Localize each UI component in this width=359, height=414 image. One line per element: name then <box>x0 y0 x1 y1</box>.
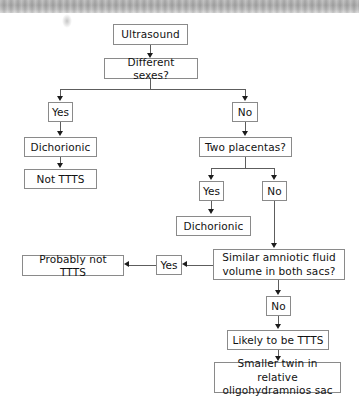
node-sexes-yes: Yes <box>48 102 73 122</box>
connector-two-placentas-stem <box>245 157 246 168</box>
node-placentas-no: No <box>262 181 287 201</box>
scanner-smudge <box>62 14 72 28</box>
node-probably-not-ttts: Probably not TTTS <box>22 255 124 276</box>
node-likely-to-be-ttts: Likely to be TTTS <box>227 330 329 350</box>
arrowhead-to-fluid-no <box>275 290 281 295</box>
scanner-artifact-band <box>0 0 359 13</box>
arrowhead-to-sexes-no <box>242 96 248 101</box>
arrowhead-to-likely-ttts <box>275 324 281 329</box>
node-smaller-twin-oligohydramnios: Smaller twin in relative oligohydramnios… <box>214 362 341 393</box>
node-similar-amniotic-fluid-line1: Similar amniotic fluid <box>222 251 336 265</box>
arrowhead-to-sexes-yes <box>57 96 63 101</box>
node-dichorionic-mid: Dichorionic <box>176 216 251 236</box>
connector-fluid-yes-to-probably-not-ttts <box>129 265 156 266</box>
connector-different-sexes-split <box>60 89 246 90</box>
node-fluid-no: No <box>266 296 291 316</box>
node-fluid-yes: Yes <box>156 255 182 275</box>
arrowhead-to-placentas-no <box>271 175 277 180</box>
arrowhead-to-not-ttts <box>57 163 63 168</box>
node-not-ttts: Not TTTS <box>24 169 97 189</box>
node-similar-amniotic-fluid-line2: volume in both sacs? <box>222 265 335 279</box>
connector-different-sexes-stem <box>150 79 151 89</box>
node-dichorionic-left: Dichorionic <box>24 137 97 157</box>
arrowhead-to-similar-fluid <box>271 243 277 248</box>
arrowhead-to-fluid-yes <box>182 261 187 267</box>
node-smaller-twin-line2: oligohydramnios sac <box>222 384 332 398</box>
connector-placentas-no-to-similar-fluid <box>274 201 275 243</box>
node-placentas-yes: Yes <box>199 181 224 201</box>
node-similar-amniotic-fluid: Similar amniotic fluid volume in both sa… <box>213 249 345 280</box>
node-smaller-twin-line1: Smaller twin in relative <box>218 357 337 384</box>
arrowhead-to-dichorionic-mid <box>208 209 214 214</box>
connector-similar-fluid-to-fluid-yes <box>187 265 213 266</box>
arrowhead-to-two-placentas <box>242 131 248 136</box>
connector-two-placentas-split <box>211 168 275 169</box>
node-ultrasound: Ultrasound <box>113 24 188 45</box>
arrowhead-to-probably-not-ttts <box>124 261 129 267</box>
node-two-placentas: Two placentas? <box>199 137 292 157</box>
flowchart-page: Ultrasound Different sexes? Yes No Dicho… <box>0 0 359 414</box>
node-sexes-no: No <box>232 102 258 122</box>
arrowhead-to-dichorionic-left <box>57 131 63 136</box>
node-different-sexes: Different sexes? <box>104 58 198 79</box>
arrowhead-to-placentas-yes <box>208 175 214 180</box>
